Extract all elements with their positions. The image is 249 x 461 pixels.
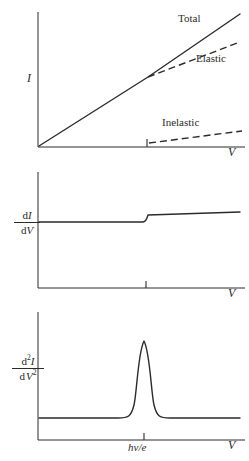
first-derivative-numerator: dI — [14, 209, 40, 221]
tunneling-spectroscopy-figure: Total Elastic Inelastic I V dI dV V — [0, 0, 249, 461]
second-derivative-y-axis-label: d2I d V2 — [12, 355, 44, 383]
current-plot-svg — [0, 0, 249, 160]
first-derivative-panel: dI dV V — [0, 160, 249, 300]
first-derivative-denominator: dV — [14, 224, 40, 236]
inelastic-current-curve — [149, 131, 242, 143]
current-y-axis-label: I — [27, 72, 31, 84]
elastic-label: Elastic — [196, 53, 226, 64]
fraction-bar — [14, 222, 40, 223]
first-derivative-x-axis-label: V — [228, 287, 235, 299]
first-derivative-y-axis-label: dI dV — [14, 209, 40, 237]
second-derivative-numerator: d2I — [12, 355, 44, 367]
second-derivative-denominator: d V2 — [12, 370, 44, 382]
total-label: Total — [178, 13, 200, 24]
second-derivative-x-axis-label: V — [228, 439, 235, 451]
second-derivative-curve — [39, 341, 240, 418]
total-current-curve — [39, 14, 240, 146]
first-derivative-curve — [39, 212, 240, 222]
current-panel: Total Elastic Inelastic I V — [0, 0, 249, 160]
second-derivative-panel: d2I d V2 hν/e V — [0, 300, 249, 461]
current-x-axis-label: V — [228, 146, 235, 158]
elastic-current-curve — [148, 42, 240, 77]
inelastic-label: Inelastic — [162, 117, 199, 128]
threshold-tick-label: hν/e — [128, 442, 146, 453]
